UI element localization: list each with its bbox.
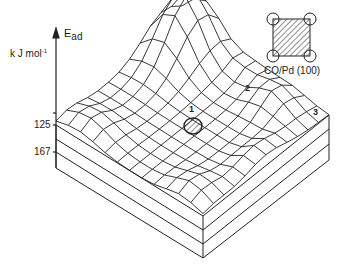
adsorption-site-1-marker	[184, 118, 202, 134]
site-label-1: 1	[189, 104, 194, 114]
energy-axis-label: Ead	[64, 27, 82, 42]
site-label-2: 2	[245, 83, 250, 93]
tick-label-125: 125	[34, 119, 51, 130]
energy-unit-label: k J mol-1	[10, 48, 47, 59]
unit-cell-inset	[267, 13, 316, 62]
inset-caption: CO/Pd (100)	[264, 65, 320, 76]
tick-label-167: 167	[34, 146, 51, 157]
energy-surface-diagram	[0, 0, 344, 273]
site-label-3: 3	[313, 107, 318, 117]
